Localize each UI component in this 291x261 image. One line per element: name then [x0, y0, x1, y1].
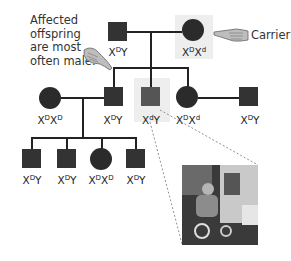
wheelchair-photo — [182, 165, 258, 245]
